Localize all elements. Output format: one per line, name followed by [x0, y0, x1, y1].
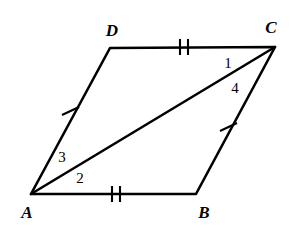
tick-mark-bc [220, 123, 237, 131]
vertex-label-a: A [21, 204, 32, 221]
angle-label-2: 2 [76, 171, 84, 186]
vertex-label-c: C [265, 19, 276, 36]
geometry-figure: A B C D 1 4 3 2 [0, 0, 299, 236]
vertex-label-b: B [198, 204, 209, 221]
angle-label-4: 4 [231, 81, 239, 96]
diagonal-ac [31, 47, 275, 194]
vertex-label-d: D [106, 22, 118, 39]
angle-label-1: 1 [224, 56, 232, 71]
geometry-canvas [0, 0, 299, 236]
angle-label-3: 3 [58, 150, 66, 165]
